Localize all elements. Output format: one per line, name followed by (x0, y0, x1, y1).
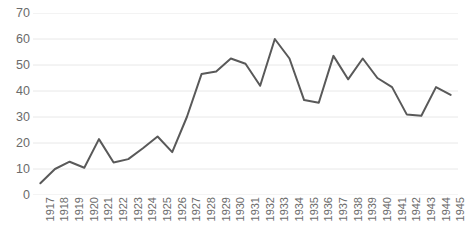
x-axis-tick-label: 1924 (147, 197, 158, 221)
x-axis-tick-text: 1919 (74, 197, 85, 221)
x-axis-tick-label: 1922 (118, 197, 129, 221)
x-axis-tick-label: 1926 (177, 197, 188, 221)
x-axis-tick-label: 1928 (206, 197, 217, 221)
x-axis-tick-text: 1937 (338, 197, 349, 221)
x-axis-tick-label: 1945 (455, 197, 466, 221)
x-axis-tick-text: 1929 (221, 197, 232, 221)
x-axis-tick-label: 1937 (338, 197, 349, 221)
x-axis-tick-text: 1934 (294, 197, 305, 221)
y-axis-tick-label: 30 (16, 111, 30, 124)
x-axis-tick-label: 1919 (74, 197, 85, 221)
x-axis-tick-text: 1921 (103, 197, 114, 221)
x-axis-tick-text: 1917 (45, 197, 56, 221)
x-axis-tick-text: 1942 (411, 197, 422, 221)
y-axis-tick-label: 50 (16, 59, 30, 72)
x-axis-tick-text: 1932 (265, 197, 276, 221)
x-axis-tick-text: 1941 (397, 197, 408, 221)
y-axis-tick-label: 0 (23, 189, 30, 202)
x-axis-tick-label: 1936 (323, 197, 334, 221)
x-axis-tick-text: 1922 (118, 197, 129, 221)
x-axis-tick-text: 1924 (147, 197, 158, 221)
x-axis-tick-label: 1925 (162, 197, 173, 221)
x-axis-tick-label: 1932 (265, 197, 276, 221)
x-axis-tick-text: 1928 (206, 197, 217, 221)
x-axis-tick-label: 1940 (382, 197, 393, 221)
x-axis-tick-text: 1944 (441, 197, 452, 221)
x-axis-tick-text: 1918 (59, 197, 70, 221)
x-axis-tick-text: 1923 (133, 197, 144, 221)
x-axis-tick-text: 1930 (235, 197, 246, 221)
x-axis-tick-text: 1925 (162, 197, 173, 221)
x-axis-tick-label: 1938 (353, 197, 364, 221)
x-axis-tick-label: 1929 (221, 197, 232, 221)
chart-title (232, 0, 462, 3)
data-series-line (40, 39, 450, 183)
y-axis-tick-label: 10 (16, 163, 30, 176)
x-axis-tick-label: 1934 (294, 197, 305, 221)
x-axis-tick-text: 1927 (191, 197, 202, 221)
x-axis-tick-text: 1935 (309, 197, 320, 221)
x-axis-tick-label: 1927 (191, 197, 202, 221)
x-axis-tick-text: 1926 (177, 197, 188, 221)
x-axis-tick-text: 1939 (367, 197, 378, 221)
x-axis-tick-label: 1930 (235, 197, 246, 221)
x-axis-tick-label: 1944 (441, 197, 452, 221)
x-axis-tick-label: 1942 (411, 197, 422, 221)
y-axis-tick-label: 60 (16, 33, 30, 46)
x-axis-tick-text: 1940 (382, 197, 393, 221)
x-axis-tick-label: 1941 (397, 197, 408, 221)
x-axis-tick-text: 1931 (250, 197, 261, 221)
x-axis-tick-text: 1945 (455, 197, 466, 221)
x-axis-tick-label: 1935 (309, 197, 320, 221)
x-axis-tick-text: 1920 (89, 197, 100, 221)
y-axis-tick-label: 40 (16, 85, 30, 98)
x-axis-tick-label: 1933 (279, 197, 290, 221)
x-axis-tick-label: 1918 (59, 197, 70, 221)
x-axis-tick-text: 1936 (323, 197, 334, 221)
x-axis-tick-label: 1921 (103, 197, 114, 221)
x-axis: 1917191819191920192119221923192419251926… (33, 197, 458, 236)
y-axis: 010203040506070 (0, 13, 30, 195)
gridlines (33, 13, 458, 195)
y-axis-tick-label: 20 (16, 137, 30, 150)
x-axis-tick-text: 1943 (426, 197, 437, 221)
x-axis-tick-label: 1943 (426, 197, 437, 221)
x-axis-tick-text: 1933 (279, 197, 290, 221)
x-axis-tick-label: 1920 (89, 197, 100, 221)
x-axis-tick-label: 1923 (133, 197, 144, 221)
x-axis-tick-label: 1939 (367, 197, 378, 221)
plot-area (33, 13, 458, 195)
x-axis-tick-text: 1938 (353, 197, 364, 221)
chart-plot-svg (33, 13, 458, 195)
y-axis-tick-label: 70 (16, 7, 30, 20)
x-axis-tick-label: 1917 (45, 197, 56, 221)
x-axis-tick-label: 1931 (250, 197, 261, 221)
